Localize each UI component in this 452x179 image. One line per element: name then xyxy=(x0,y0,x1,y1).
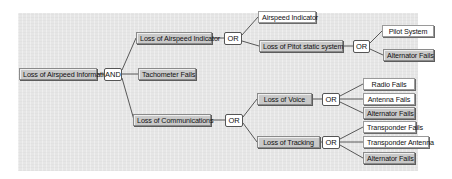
basic-event-radio-fails[interactable]: Radio Fails xyxy=(363,78,415,90)
or-gate-voice[interactable]: OR xyxy=(322,93,340,106)
basic-event-transponder-fails[interactable]: Transponder Fails xyxy=(363,121,416,133)
basic-event-transponder-antenna[interactable]: Transponder Antenna xyxy=(363,136,429,148)
event-loss-of-pitot-static-system[interactable]: Loss of Pitot static system xyxy=(259,40,343,52)
event-loss-of-voice[interactable]: Loss of Voice xyxy=(257,93,312,105)
event-tachometer-fails[interactable]: Tachometer Fails xyxy=(138,68,196,80)
event-alternator-fails-voice[interactable]: Alternator Fails xyxy=(363,107,415,119)
event-loss-of-communications[interactable]: Loss of Communications xyxy=(133,114,211,126)
or-gate-communications[interactable]: OR xyxy=(225,114,243,127)
event-alternator-fails-tracking[interactable]: Alternator Fails xyxy=(363,152,415,164)
basic-event-pilot-system[interactable]: Pilot System xyxy=(382,25,434,37)
event-loss-of-tracking[interactable]: Loss of Tracking xyxy=(257,136,320,148)
or-gate-tracking[interactable]: OR xyxy=(322,136,340,149)
event-loss-of-airspeed-indicator[interactable]: Loss of Airspeed Indicator xyxy=(136,32,212,44)
event-alternator-fails-pitot[interactable]: Alternator Fails xyxy=(383,49,434,61)
and-gate[interactable]: AND xyxy=(104,68,122,81)
or-gate-pitot-static[interactable]: OR xyxy=(353,40,370,53)
or-gate-airspeed-indicator[interactable]: OR xyxy=(224,32,242,45)
root-event-loss-of-airspeed-information[interactable]: Loss of Airspeed Information xyxy=(19,68,97,80)
basic-event-airspeed-indicator[interactable]: Airspeed Indicator xyxy=(258,11,316,23)
basic-event-antenna-fails[interactable]: Antenna Fails xyxy=(363,93,415,105)
